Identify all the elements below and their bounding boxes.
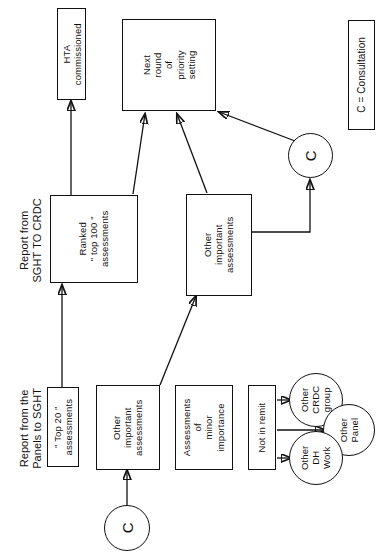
annotation-label: Report from SGHT TO CRDC (18, 198, 45, 282)
edge-ranked-to-next-round (133, 114, 145, 194)
flowchart-canvas: HTA commissioned Next round of priority … (0, 0, 382, 557)
node-label: Other CRDC group (299, 386, 333, 414)
node-top20[interactable]: " Top 20 " assessments (47, 387, 79, 467)
node-label: Assessments of minor importance (182, 399, 227, 457)
node-label: Other important assessments (111, 399, 145, 456)
node-label: Next round of priority setting (141, 50, 197, 79)
node-ranked-top100[interactable]: Ranked " top 100 " assessments (50, 195, 138, 283)
node-label: " Top 20 " assessments (52, 399, 74, 456)
node-label: Other Panel (338, 418, 360, 443)
legend-label: C = Consultation (356, 37, 368, 113)
node-label: C (302, 150, 320, 161)
annotation-report-panels-sght: Report from the Panels to SGHT (12, 378, 50, 478)
node-hta-commissioned[interactable]: HTA commissioned (57, 8, 86, 100)
annotation-report-sght-crdc: Report from SGHT TO CRDC (12, 190, 50, 290)
edge-otherimportant-to-next-round (177, 114, 207, 193)
edge-consultation-to-next-round (219, 112, 295, 141)
node-label: HTA commissioned (60, 23, 82, 85)
node-label: Other DH Work (299, 446, 333, 470)
edge-bottom-otherimportant-to-mid (160, 296, 196, 385)
annotation-label: Report from the Panels to SGHT (18, 388, 45, 469)
legend-box: C = Consultation (348, 20, 375, 130)
node-other-dh-work[interactable]: Other DH Work (289, 431, 343, 485)
node-not-in-remit[interactable]: Not in remit (248, 385, 276, 470)
node-label: Not in remit (256, 403, 267, 453)
edge-otherimportant-to-consultation (252, 180, 310, 232)
node-label: Ranked " top 100 " assessments (77, 211, 111, 268)
node-consultation-top[interactable]: C (288, 133, 333, 178)
node-label: Other important assessments (202, 217, 236, 274)
node-other-important-bottom[interactable]: Other important assessments (96, 385, 160, 470)
node-consultation-bottom[interactable]: C (104, 505, 150, 551)
node-minor-importance[interactable]: Assessments of minor importance (175, 385, 233, 470)
node-label: C (118, 523, 136, 534)
node-next-round[interactable]: Next round of priority setting (122, 19, 216, 111)
node-other-important-mid[interactable]: Other important assessments (186, 194, 252, 296)
